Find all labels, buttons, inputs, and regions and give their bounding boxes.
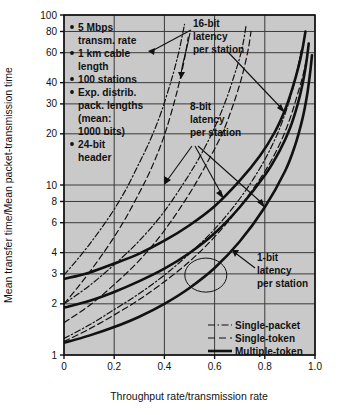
y-tick-label: 80 (46, 26, 58, 37)
x-tick-label: 0.4 (157, 361, 171, 372)
x-tick-label: 0.8 (258, 361, 272, 372)
note-line: Exp. distrib. (78, 87, 136, 98)
bullet-icon (70, 51, 74, 55)
throughput-vs-transfer-time-chart: 123468102030406080100 00.20.40.60.81.0 M… (0, 0, 338, 415)
x-axis-title: Throughput rate/transmission rate (110, 390, 268, 402)
note-line: pack. lengths (78, 100, 143, 111)
y-tick-label: 6 (51, 217, 57, 228)
annotation-line: latency (193, 31, 228, 42)
y-tick-label: 40 (46, 77, 58, 88)
note-line: length (78, 61, 109, 72)
note-line: header (78, 152, 111, 163)
annotation-line: 16-bit (193, 18, 220, 29)
bullet-icon (70, 25, 74, 29)
chart-screenshot: 123468102030406080100 00.20.40.60.81.0 M… (0, 0, 338, 415)
bullet-icon (70, 77, 74, 81)
note-line: 1 km cable (78, 48, 130, 59)
bullet-icon (70, 142, 74, 146)
note-line: 5 Mbps (78, 22, 113, 33)
y-tick-label: 8 (51, 196, 57, 207)
y-tick-label: 100 (40, 10, 57, 21)
y-tick-label: 1 (51, 350, 57, 361)
note-line: transm. rate (78, 35, 137, 46)
legend: Single-packet Single-token Multiple-toke… (208, 320, 303, 357)
x-tick-label: 0.2 (107, 361, 121, 372)
annotation-line: latency (257, 265, 292, 276)
x-tick-label: 1.0 (308, 361, 322, 372)
annotation-line: per station (257, 278, 308, 289)
legend-label: Single-packet (235, 320, 301, 331)
note-line: (mean: (78, 113, 111, 124)
note-line: 100 stations (78, 74, 137, 85)
x-tick-label: 0.6 (208, 361, 222, 372)
annotation-line: 8-bit (190, 101, 212, 112)
legend-label: Multiple-token (235, 346, 303, 357)
legend-label: Single-token (235, 333, 295, 344)
annotation-line: per station (190, 127, 241, 138)
y-tick-label: 10 (46, 180, 58, 191)
annotation-line: 1-bit (257, 252, 279, 263)
x-tick-label: 0 (61, 361, 67, 372)
note-line: 1000 bits) (78, 126, 125, 137)
y-tick-label: 3 (51, 268, 57, 279)
y-tick-label: 4 (51, 247, 57, 258)
y-tick-label: 2 (51, 298, 57, 309)
y-tick-label: 60 (46, 47, 58, 58)
annotation-line: per station (193, 44, 244, 55)
y-tick-label: 30 (46, 98, 58, 109)
annotation-line: latency (190, 114, 225, 125)
bullet-icon (70, 90, 74, 94)
y-tick-label: 20 (46, 128, 58, 139)
note-line: 24-bit (78, 139, 106, 150)
y-axis-title: Mean transfer time/Mean packet-transmiss… (2, 67, 14, 303)
